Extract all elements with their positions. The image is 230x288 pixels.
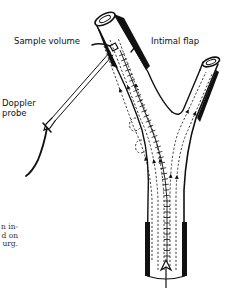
- probe-cable: [26, 128, 47, 176]
- flap-hatch: [163, 190, 169, 191]
- doppler-probe-label-line1: Doppler: [2, 98, 36, 108]
- flap-centerline: [120, 50, 167, 262]
- doppler-probe: [26, 52, 113, 176]
- upper-branch-dark-wall: [114, 14, 150, 70]
- flow-line: [104, 46, 152, 260]
- flow-lines: [104, 38, 212, 270]
- sample-volume-marker: [110, 43, 118, 51]
- sample-volume-leader: [92, 44, 110, 46]
- doppler-probe-label-line2: probe: [2, 108, 27, 118]
- flow-line: [170, 72, 206, 270]
- probe-shaft-left: [52, 52, 110, 118]
- caption-line: urg.: [1, 240, 18, 249]
- trunk-left-dark-wall: [145, 222, 150, 276]
- left-branch-outer-wall: [96, 24, 148, 275]
- probe-shaft-right: [55, 55, 113, 121]
- intimal-flap-label: Intimal flap: [151, 36, 199, 46]
- flow-arrowhead: [152, 159, 156, 163]
- trunk-right-dark-wall: [182, 222, 187, 276]
- flow-arrowhead: [185, 109, 189, 113]
- probe-head: [44, 118, 55, 130]
- diagram-canvas: Sample volume Intimal flap Doppler probe…: [0, 0, 230, 288]
- flow-line: [110, 40, 158, 270]
- flow-arrowhead: [175, 175, 179, 179]
- inflow-arrow: [161, 260, 171, 288]
- sample-volume-label: Sample volume: [14, 36, 80, 46]
- flow-line: [118, 38, 164, 270]
- caption-fragment: n in- d on urg.: [1, 223, 18, 249]
- right-branch-dark-wall: [197, 70, 219, 122]
- flow-arrowhead: [169, 174, 173, 178]
- flap-hatch: [162, 179, 168, 180]
- bifurcation-crotch: [172, 70, 200, 114]
- flap-hatch: [163, 184, 169, 185]
